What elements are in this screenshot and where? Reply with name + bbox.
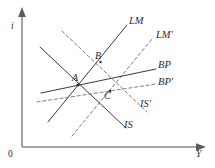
point-b-label: B — [95, 51, 101, 61]
point-a-dot — [77, 84, 80, 87]
origin-label: 0 — [8, 150, 13, 160]
x-axis-label: Y — [196, 150, 201, 160]
lm-curve — [48, 25, 127, 122]
lm-prime-curve — [72, 39, 152, 136]
bp-prime-curve-label: BP' — [158, 77, 173, 88]
y-axis-arrowhead — [18, 7, 26, 17]
y-axis-label: i — [11, 22, 14, 32]
bp-curve — [41, 69, 156, 93]
is-curve-label: IS — [124, 120, 133, 131]
curves-group — [37, 25, 156, 136]
point-b-dot — [99, 61, 101, 63]
point-c-label: C — [104, 91, 111, 101]
is-lm-bp-figure: i Y 0 LM LM' BP BP' IS' IS A B C — [0, 0, 215, 168]
lm-curve-label: LM — [129, 16, 144, 27]
bp-curve-label: BP — [158, 60, 171, 71]
figure-canvas — [0, 0, 215, 168]
point-a-label: A — [72, 73, 78, 83]
is-prime-curve-label: IS' — [140, 99, 151, 110]
lm-prime-curve-label: LM' — [156, 30, 173, 41]
bp-prime-curve — [37, 84, 156, 102]
